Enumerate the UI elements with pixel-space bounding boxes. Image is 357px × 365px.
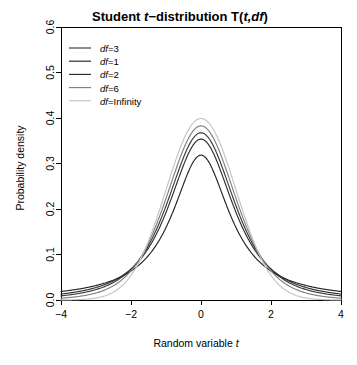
y-tick-label: 0.2 — [44, 202, 56, 217]
chart-container: −4−2024 0.00.10.20.30.40.50.6 df=3df=1df… — [0, 0, 357, 365]
x-axis-title: Random variable t — [153, 337, 239, 349]
y-tick-label: 0.6 — [44, 20, 56, 35]
legend-label-df-1: df=1 — [100, 56, 119, 67]
y-tick-label: 0.3 — [44, 156, 56, 171]
chart-legend: df=3df=1df=2df=6df=Infinity — [69, 43, 142, 107]
y-tick-label: 0.4 — [44, 111, 56, 126]
density-curve-df-2 — [61, 139, 341, 294]
x-tick-label: 4 — [338, 308, 344, 320]
y-axis-title: Probability density — [14, 125, 26, 211]
x-tick-label: −2 — [125, 308, 137, 320]
curve-group — [61, 118, 341, 299]
y-axis-tick-labels: 0.00.10.20.30.40.50.6 — [44, 20, 56, 308]
y-tick-label: 0.5 — [44, 65, 56, 80]
x-tick-label: 2 — [268, 308, 274, 320]
chart-title: Student t−distribution T(t,df) — [92, 9, 268, 24]
x-tick-label: 0 — [198, 308, 204, 320]
student-t-distribution-chart: −4−2024 0.00.10.20.30.40.50.6 df=3df=1df… — [0, 0, 357, 365]
y-tick-label: 0.1 — [44, 247, 56, 262]
density-curve-df-infinity — [61, 118, 341, 299]
x-axis-ticks — [61, 300, 341, 305]
legend-label-df-3: df=3 — [100, 43, 119, 54]
density-curve-df-6 — [61, 126, 341, 298]
density-curve-df-1 — [61, 155, 341, 291]
y-axis-ticks — [56, 27, 61, 300]
density-curve-df-3 — [61, 133, 341, 296]
legend-label-df-6: df=6 — [100, 82, 119, 93]
y-tick-label: 0.0 — [44, 293, 56, 308]
legend-label-df-2: df=2 — [100, 69, 119, 80]
legend-label-df-infinity: df=Infinity — [100, 95, 142, 106]
x-axis-tick-labels: −4−2024 — [55, 308, 344, 320]
x-tick-label: −4 — [55, 308, 67, 320]
